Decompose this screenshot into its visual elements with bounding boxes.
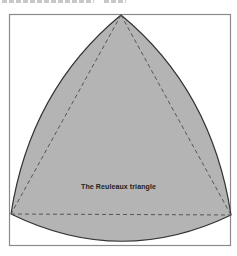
figure-label: The Reuleaux triangle (0, 183, 237, 190)
reuleaux-diagram (0, 0, 237, 256)
